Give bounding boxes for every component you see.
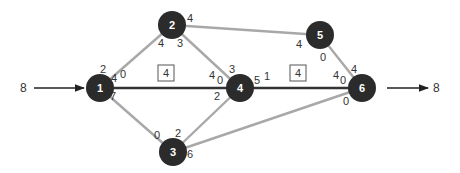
edge-label: 4 — [187, 12, 193, 24]
edge-label: 0 — [320, 51, 326, 63]
edge-label: 0 — [217, 74, 223, 86]
node-label: 5 — [317, 29, 323, 41]
edge-label: 0 — [340, 74, 346, 86]
node-label: 3 — [170, 146, 176, 158]
sink-flow-label: 8 — [433, 81, 440, 95]
edge-label: 3 — [229, 63, 235, 75]
node-2: 2 — [158, 11, 186, 39]
edge-label: 5 — [254, 74, 260, 86]
edge-label: 4 — [209, 69, 215, 81]
edge-label: 0 — [343, 95, 349, 107]
edge-label: 4 — [296, 38, 302, 50]
flow-network-diagram: 8 8 44 2407443026403251404040 123456 — [0, 0, 460, 173]
node-3: 3 — [159, 138, 187, 166]
node-label: 2 — [169, 19, 175, 31]
edge-label: 0 — [120, 68, 126, 80]
edge-label: 4 — [351, 63, 357, 75]
node-label: 4 — [237, 82, 244, 94]
node-5: 5 — [306, 21, 334, 49]
edge-label: 3 — [177, 37, 183, 49]
source-flow-label: 8 — [20, 81, 27, 95]
capacity-box-label: 4 — [163, 67, 169, 79]
edge-label: 2 — [100, 63, 106, 75]
edge-label: 2 — [175, 127, 181, 139]
edge-label: 4 — [333, 69, 339, 81]
node-1: 1 — [86, 74, 114, 102]
edge-label: 2 — [214, 90, 220, 102]
edge-label: 6 — [187, 148, 193, 160]
node-4: 4 — [226, 74, 254, 102]
node-6: 6 — [348, 74, 376, 102]
edge-label: 0 — [154, 129, 160, 141]
edge-label: 1 — [264, 70, 270, 82]
node-label: 6 — [359, 82, 365, 94]
edge-label: 4 — [158, 37, 164, 49]
node-label: 1 — [97, 82, 103, 94]
capacity-box-label: 4 — [295, 67, 301, 79]
diagram-svg: 8 8 44 2407443026403251404040 123456 — [0, 0, 460, 173]
edge-2-5 — [172, 25, 320, 35]
edge-3-6 — [173, 88, 362, 152]
